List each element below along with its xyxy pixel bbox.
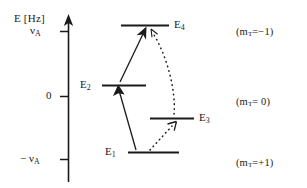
axis-tick-label-nu-a: νA [30, 25, 41, 38]
level-label-e2-subscript: 2 [87, 83, 91, 92]
manifold-1-symbol: m [240, 96, 248, 107]
level-label-e4-symbol: E [174, 18, 181, 30]
axis-tick-label-minus-nu-a: − νA [20, 153, 40, 166]
manifold-1-close: ) [266, 96, 270, 107]
level-label-e1-subscript: 1 [112, 150, 116, 159]
transition-e2-to-e4-line [120, 34, 143, 82]
level-label-e3: E3 [199, 112, 210, 125]
level-label-e1: E1 [105, 146, 116, 159]
transition-e4-to-e3-line [154, 34, 175, 114]
level-label-e1-symbol: E [105, 145, 112, 157]
transition-e1-to-e3 [150, 122, 177, 151]
transition-e2-to-e4 [120, 27, 147, 83]
energy-level-diagram: E [Hz] νA 0 − νA E4 E2 E3 E1 (mT=−1) (mT… [0, 0, 307, 188]
level-label-e4-subscript: 4 [181, 23, 185, 32]
manifold-0-symbol: m [240, 26, 248, 37]
manifold-0-relation: =−1 [252, 26, 269, 37]
manifold-2-symbol: m [240, 157, 248, 168]
level-label-e3-symbol: E [199, 111, 206, 123]
transition-e1-to-e3-line [150, 126, 172, 150]
axis-tick-label-zero: 0 [46, 90, 52, 101]
axis-title: E [Hz] [14, 13, 45, 24]
level-label-e2-symbol: E [80, 78, 87, 90]
axis-ticks [60, 32, 69, 160]
axis-tick-minus-prefix: − [20, 152, 29, 164]
transition-e1-to-e2-line [120, 92, 137, 150]
manifold-0-close: ) [270, 26, 274, 37]
manifold-label-zero: (mT= 0) [236, 97, 270, 109]
manifold-label-plus-one: (mT=+1) [236, 158, 273, 170]
transition-e1-to-e2 [113, 85, 136, 151]
transition-e4-to-e3 [151, 29, 174, 114]
manifold-2-relation: =+1 [252, 157, 269, 168]
level-label-e4: E4 [174, 19, 185, 32]
manifold-2-close: ) [270, 157, 274, 168]
energy-level-lines [102, 26, 194, 153]
manifold-label-minus-one: (mT=−1) [236, 27, 273, 39]
energy-axis [64, 14, 73, 182]
axis-tick-minus-nu-a-subscript: A [34, 157, 40, 166]
manifold-1-relation: = 0 [252, 96, 266, 107]
axis-tick-nu-a-subscript: A [35, 29, 41, 38]
level-label-e2: E2 [80, 79, 91, 92]
level-label-e3-subscript: 3 [206, 116, 210, 125]
